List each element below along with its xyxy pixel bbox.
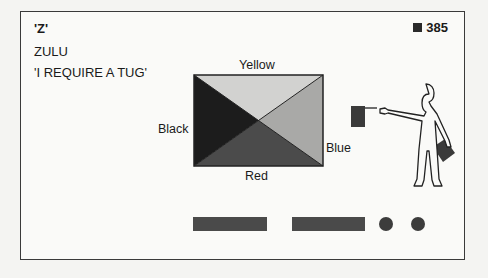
morse-dash-icon [292, 217, 365, 231]
flag-label-top: Yellow [239, 59, 275, 72]
flag-label-bottom: Red [245, 170, 268, 183]
flag-label-left: Black [158, 123, 189, 136]
semaphore-figure-icon [351, 84, 455, 186]
morse-dash-icon [193, 217, 267, 231]
flag-label-right: Blue [326, 142, 351, 155]
morse-dot-icon [411, 217, 425, 231]
signal-card: 'Z' ZULU 'I REQUIRE A TUG' 385 Yellow [20, 11, 465, 260]
morse-dot-icon [379, 217, 393, 231]
